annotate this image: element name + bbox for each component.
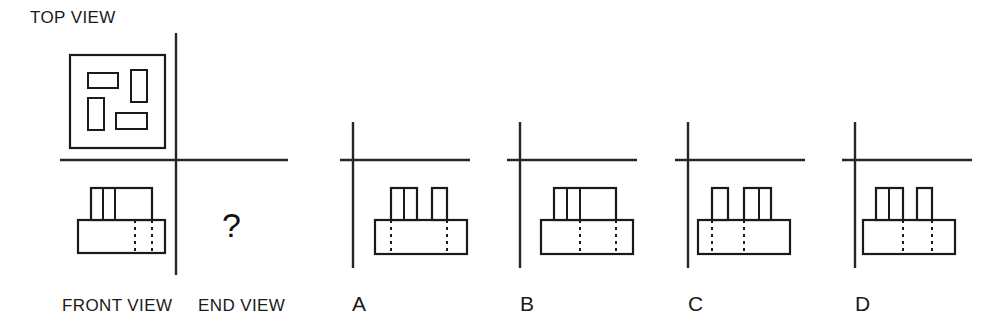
option-A-base bbox=[375, 220, 467, 254]
option-D-drawing[interactable] bbox=[842, 122, 972, 268]
option-B-base bbox=[541, 220, 633, 254]
option-B-drawing[interactable] bbox=[507, 122, 637, 268]
figure-canvas: TOP VIEW ? FRONT VIEW END VIEW ABCD bbox=[0, 0, 990, 329]
option-B-label[interactable]: B bbox=[520, 292, 534, 316]
option-A-riser-2 bbox=[432, 188, 447, 220]
option-C-drawing[interactable] bbox=[675, 122, 805, 268]
option-B-riser-1 bbox=[554, 188, 616, 220]
option-C-riser-2 bbox=[744, 188, 771, 220]
option-D-riser-2 bbox=[917, 188, 932, 220]
option-D-base bbox=[863, 220, 955, 254]
answer-options-drawing bbox=[0, 0, 990, 329]
option-D-label[interactable]: D bbox=[855, 292, 870, 316]
option-A-label[interactable]: A bbox=[352, 292, 366, 316]
option-C-label[interactable]: C bbox=[688, 292, 703, 316]
option-C-riser-1 bbox=[712, 188, 728, 220]
option-A-drawing[interactable] bbox=[340, 122, 470, 268]
